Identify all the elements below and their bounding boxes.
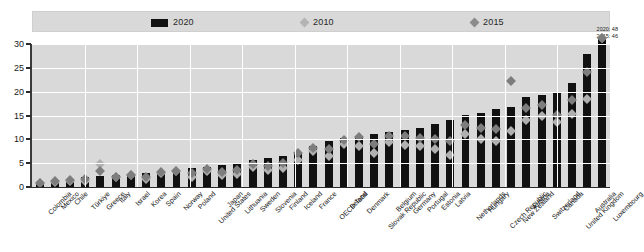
x-axis-labels: ColombiaMexicoChileTürkiyeGreeceItalyIsr… — [32, 190, 610, 252]
y-axis: 051015202530 — [0, 40, 28, 187]
y-tick-mark — [26, 138, 31, 140]
legend-bar-swatch-icon — [151, 19, 168, 27]
chart-legend: 2020 2010 2015 — [32, 11, 610, 32]
y-tick-label: 10 — [14, 135, 24, 144]
gridline-horizontal — [32, 163, 610, 164]
legend-item-2015: 2015 — [471, 12, 504, 33]
gridline-vertical — [557, 44, 558, 187]
bar — [96, 176, 104, 187]
overflow-annotation-line1: 2020: 48 — [597, 26, 618, 33]
x-axis-label: Israel — [134, 190, 151, 207]
gridline-vertical — [190, 44, 191, 187]
y-tick-label: 5 — [19, 159, 24, 168]
y-tick-mark — [26, 43, 31, 45]
gridline-vertical — [85, 44, 86, 187]
x-axis-line — [30, 187, 610, 188]
gridline-horizontal — [32, 68, 610, 69]
gridline-vertical — [505, 44, 506, 187]
gridline-horizontal — [32, 116, 610, 117]
legend-diamond-2010-icon — [300, 18, 310, 28]
x-axis-label: Spain — [165, 190, 183, 208]
plot-wrapper: 051015202530 — [0, 40, 620, 190]
y-tick-mark — [26, 115, 31, 117]
gridline-vertical — [137, 44, 138, 187]
x-axis-label: Ireland — [348, 190, 368, 210]
plot-area — [32, 44, 610, 187]
gridline-vertical — [242, 44, 243, 187]
bar — [492, 109, 500, 187]
legend-label-2010: 2010 — [313, 18, 334, 27]
bar — [507, 107, 515, 187]
legend-item-2010: 2010 — [301, 12, 334, 33]
y-tick-label: 25 — [14, 63, 24, 72]
gridline-vertical — [452, 44, 453, 187]
y-tick-mark — [26, 91, 31, 93]
gridline-horizontal — [32, 139, 610, 140]
x-axis-label: Korea — [150, 190, 168, 208]
y-tick-mark — [26, 186, 31, 188]
y-tick-label: 15 — [14, 111, 24, 120]
y-tick-label: 20 — [14, 87, 24, 96]
legend-item-2020: 2020 — [151, 12, 194, 33]
gridline-vertical — [400, 44, 401, 187]
y-tick-mark — [26, 162, 31, 164]
x-axis-label: Denmark — [365, 190, 390, 215]
gridline-vertical — [295, 44, 296, 187]
marker-2015 — [95, 166, 105, 176]
bar — [598, 38, 606, 187]
y-tick-label: 0 — [19, 183, 24, 192]
y-tick-mark — [26, 67, 31, 69]
gridline-horizontal — [32, 44, 610, 45]
legend-label-2020: 2020 — [173, 18, 194, 27]
legend-label-2015: 2015 — [483, 18, 504, 27]
marker-2015 — [506, 76, 516, 86]
y-tick-label: 30 — [14, 40, 24, 49]
legend-diamond-2015-icon — [470, 18, 480, 28]
gridline-horizontal — [32, 92, 610, 93]
gridline-vertical — [347, 44, 348, 187]
